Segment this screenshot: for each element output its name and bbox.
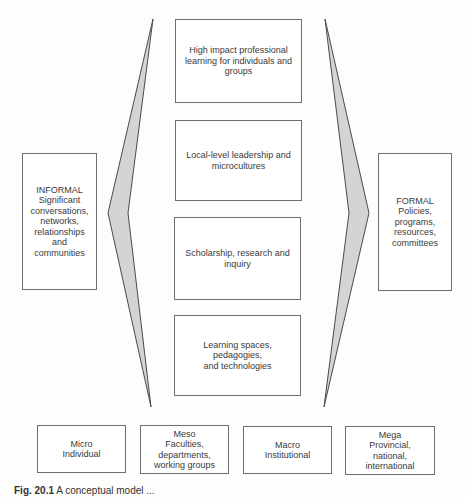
bottom-box-macro: Macro Institutional xyxy=(243,426,332,474)
bottom-box-label: Meso Faculties, departments, working gro… xyxy=(154,429,215,471)
bottom-box-label: Mega Provincial, national, international xyxy=(352,430,428,472)
right-chevron-arrow xyxy=(324,19,369,407)
figure-caption: Fig. 20.1 A conceptual model ... xyxy=(14,485,155,497)
formal-label: FORMAL Policies, programs, resources, co… xyxy=(392,196,438,249)
bottom-box-label: Macro Institutional xyxy=(265,440,311,461)
center-box-professional-learning: High impact professional learning for in… xyxy=(175,19,302,103)
bottom-box-label: Micro Individual xyxy=(62,439,100,460)
center-box-local-leadership: Local-level leadership and microcultures xyxy=(175,120,302,201)
center-box-scholarship: Scholarship, research and inquiry xyxy=(174,217,301,300)
figure-number: Fig. 20.1 xyxy=(14,485,54,496)
center-box-label: Local-level leadership and microcultures xyxy=(186,150,291,171)
informal-box: INFORMAL Significant conversations, netw… xyxy=(22,153,97,290)
center-box-label: Scholarship, research and inquiry xyxy=(185,248,290,269)
left-chevron-arrow xyxy=(108,19,153,407)
bottom-box-mega: Mega Provincial, national, international xyxy=(345,426,435,475)
center-box-label: Learning spaces, pedagogies, and technol… xyxy=(181,340,294,372)
center-box-label: High impact professional learning for in… xyxy=(185,45,292,77)
figure-caption-text: A conceptual model ... xyxy=(56,485,154,496)
formal-box: FORMAL Policies, programs, resources, co… xyxy=(378,153,452,291)
informal-label: INFORMAL Significant conversations, netw… xyxy=(26,185,93,259)
bottom-box-meso: Meso Faculties, departments, working gro… xyxy=(140,425,229,474)
center-box-learning-spaces: Learning spaces, pedagogies, and technol… xyxy=(174,315,301,396)
bottom-box-micro: Micro Individual xyxy=(37,425,126,473)
